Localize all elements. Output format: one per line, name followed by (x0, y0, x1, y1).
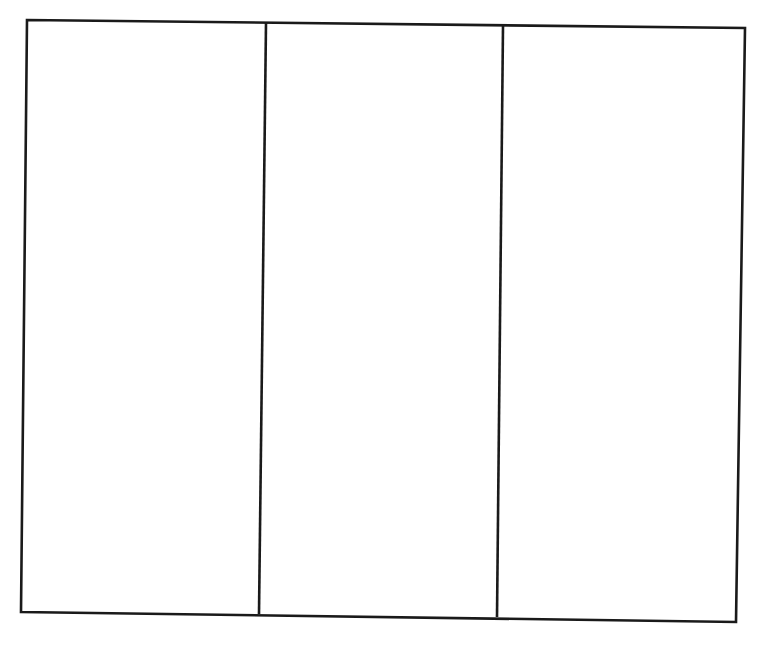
column-2-area[interactable] (268, 28, 496, 612)
column-3-area[interactable] (506, 31, 734, 616)
worksheet-page (0, 0, 769, 645)
column-1-area[interactable] (30, 26, 258, 609)
